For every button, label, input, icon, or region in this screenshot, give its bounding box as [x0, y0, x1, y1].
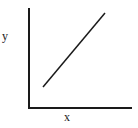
x-axis-label: x: [64, 111, 70, 123]
data-line: [43, 13, 105, 87]
y-axis-label: y: [2, 30, 8, 42]
graph-canvas: [0, 0, 138, 128]
line-graph-diagram: y x: [0, 0, 138, 128]
